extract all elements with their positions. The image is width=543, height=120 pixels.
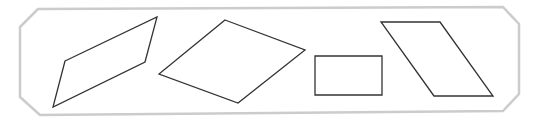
quadrilaterals-diagram (0, 0, 543, 120)
rhombus-shape (159, 20, 305, 103)
parallelogram-right-shape (381, 22, 493, 96)
diagram-frame (20, 7, 519, 115)
rectangle-shape (315, 56, 382, 95)
parallelogram-left-shape (53, 17, 157, 107)
